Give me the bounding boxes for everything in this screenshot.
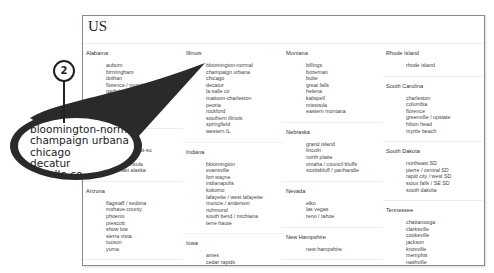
city-link[interactable]: ames xyxy=(206,252,283,259)
city-link[interactable]: decatur xyxy=(206,82,283,89)
title-divider xyxy=(83,43,484,44)
city-link[interactable]: fort wayne xyxy=(206,174,283,181)
city-list: rhode island xyxy=(383,62,483,69)
city-link[interactable]: montgomery xyxy=(106,108,183,115)
city-link[interactable]: florence / muscle shoals xyxy=(106,82,183,89)
city-link[interactable]: indianapolis xyxy=(206,180,283,187)
city-list: flagstaff / sedonamohave countyphoenixpr… xyxy=(83,200,183,253)
city-link[interactable]: helena xyxy=(306,88,383,95)
city-link[interactable]: gadsden-anniston xyxy=(106,88,183,95)
city-link[interactable]: clarksville xyxy=(406,226,483,233)
city-link[interactable]: south bend / michiana xyxy=(206,213,283,220)
city-link[interactable]: flagstaff / sedona xyxy=(106,200,183,207)
city-link[interactable]: bloomington xyxy=(206,161,283,168)
city-link[interactable]: reno / tahoe xyxy=(306,213,383,220)
city-link[interactable]: memphis xyxy=(406,252,483,259)
city-link[interactable]: new hampshire xyxy=(306,246,383,253)
city-list: bloomington-normalchampaign urbanachicag… xyxy=(183,62,283,135)
city-link[interactable]: bozeman xyxy=(306,69,383,76)
city-link[interactable]: southeast alaska xyxy=(106,167,183,174)
city-link[interactable]: show low xyxy=(106,226,183,233)
state-heading: Nebraska xyxy=(283,129,383,135)
city-link[interactable]: huntsville / decatur xyxy=(106,95,183,102)
city-link[interactable]: richmond xyxy=(206,207,283,214)
city-link[interactable]: evansville xyxy=(206,167,283,174)
city-link[interactable]: north platte xyxy=(306,154,383,161)
city-link[interactable]: tucson xyxy=(106,239,183,246)
city-link[interactable]: lafayette / west lafayette xyxy=(206,194,283,201)
city-link[interactable]: prescott xyxy=(106,220,183,227)
city-link[interactable]: bloomington-normal xyxy=(206,62,283,69)
city-link[interactable]: sioux falls / SE SD xyxy=(406,180,483,187)
city-link[interactable]: tri-cities xyxy=(406,265,483,266)
city-link[interactable]: florence xyxy=(406,108,483,115)
state-section: Alabamaauburnbirminghamdothanflorence / … xyxy=(83,50,183,129)
city-link[interactable]: grand island xyxy=(306,141,383,148)
city-link[interactable]: nashville xyxy=(406,259,483,266)
city-link[interactable]: sierra vista xyxy=(106,233,183,240)
city-link[interactable]: western IL xyxy=(206,128,283,135)
state-section: Montanabillingsbozemanbuttegreat fallshe… xyxy=(283,50,383,123)
city-link[interactable]: phoenix xyxy=(106,213,183,220)
city-link[interactable]: peoria xyxy=(206,102,283,109)
city-link[interactable]: dothan xyxy=(106,75,183,82)
city-link[interactable]: mohave county xyxy=(106,206,183,213)
step-number-badge: 2 xyxy=(53,60,75,82)
city-list: chattanoogaclarksvillecookevillejacksonk… xyxy=(383,219,483,266)
city-link[interactable]: las vegas xyxy=(306,206,383,213)
city-link[interactable]: scottsbluff / panhandle xyxy=(306,167,383,174)
city-link[interactable]: south dakota xyxy=(406,187,483,194)
city-link[interactable]: billings xyxy=(306,62,383,69)
city-link[interactable]: muncie / anderson xyxy=(206,200,283,207)
city-link[interactable]: chattanooga xyxy=(406,219,483,226)
city-link[interactable]: la salle co xyxy=(206,88,283,95)
city-link[interactable]: auburn xyxy=(106,62,183,69)
city-link[interactable]: mobile xyxy=(106,102,183,109)
city-link[interactable]: northeast SD xyxy=(406,160,483,167)
state-heading: Indiana xyxy=(183,149,283,155)
city-link[interactable]: chicago xyxy=(206,75,283,82)
city-link[interactable]: lincoln xyxy=(306,147,383,154)
city-link[interactable]: yuma xyxy=(106,246,183,253)
city-link[interactable]: kokomo xyxy=(206,187,283,194)
state-heading: Tennessee xyxy=(383,207,483,213)
city-link[interactable]: great falls xyxy=(306,82,383,89)
city-link[interactable]: omaha / council bluffs xyxy=(306,161,383,168)
city-link[interactable]: birmingham xyxy=(106,69,183,76)
city-link[interactable]: springfield xyxy=(206,121,283,128)
page-title: US xyxy=(88,18,107,35)
city-link[interactable]: terre haute xyxy=(206,220,283,227)
city-link[interactable]: columbia xyxy=(406,101,483,108)
state-section: New Hampshirenew hampshire xyxy=(283,234,383,261)
city-link[interactable]: myrtle beach xyxy=(406,128,483,135)
state-column: Montanabillingsbozemanbuttegreat fallshe… xyxy=(283,46,383,266)
city-link[interactable]: eastern montana xyxy=(306,108,383,115)
state-heading: Nevada xyxy=(283,188,383,194)
city-link[interactable]: mattoon-charleston xyxy=(206,95,283,102)
city-link[interactable]: rockford xyxy=(206,108,283,115)
city-link[interactable]: rhode island xyxy=(406,62,483,69)
state-heading: Arizona xyxy=(83,188,183,194)
city-link[interactable]: butte xyxy=(306,75,383,82)
city-link[interactable]: greenville / upstate xyxy=(406,114,483,121)
state-section: South Dakotanortheast SDpierre / central… xyxy=(383,148,483,201)
city-link[interactable]: tuscaloosa xyxy=(106,115,183,122)
city-link[interactable]: elko xyxy=(306,200,383,207)
city-link[interactable]: champaign urbana xyxy=(206,69,283,76)
city-link[interactable]: knoxville xyxy=(406,246,483,253)
city-link[interactable]: hilton head xyxy=(406,121,483,128)
city-link[interactable]: jackson xyxy=(406,239,483,246)
city-link[interactable]: charleston xyxy=(406,95,483,102)
state-heading: New Hampshire xyxy=(283,234,383,240)
city-link[interactable]: kalispell xyxy=(306,95,383,102)
city-link[interactable]: cedar rapids xyxy=(206,259,283,266)
state-section: Indianabloomingtonevansvillefort waynein… xyxy=(183,149,283,235)
city-link[interactable]: southern illinois xyxy=(206,115,283,122)
city-link[interactable]: rapid city / west SD xyxy=(406,173,483,180)
state-section: Arizonaflagstaff / sedonamohave countyph… xyxy=(83,188,183,261)
state-heading: South Carolina xyxy=(383,83,483,89)
magnified-line: champaign urbana xyxy=(30,135,137,146)
city-link[interactable]: pierre / central SD xyxy=(406,167,483,174)
city-link[interactable]: missoula xyxy=(306,102,383,109)
city-link[interactable]: cookeville xyxy=(406,232,483,239)
